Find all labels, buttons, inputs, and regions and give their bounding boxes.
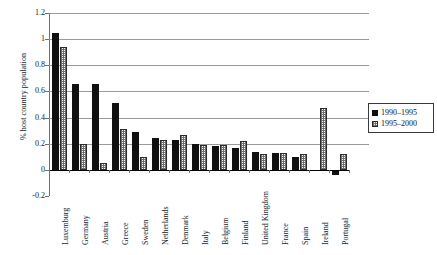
x-axis-tick [249,170,250,173]
legend-item: 1995–2000 [372,118,430,129]
y-axis-tick [45,39,49,40]
x-axis-tick-label: Sweden [142,220,150,245]
bar [300,154,307,170]
bar [280,153,287,170]
y-axis-tick [45,13,49,14]
bar [132,132,139,170]
x-axis-tick-label: Finland [242,220,250,244]
bar [200,145,207,170]
x-axis-tick [209,170,210,173]
bar [232,148,239,170]
bar [220,145,227,170]
y-axis-tick-label: 0.8 [3,61,45,69]
y-axis-tick-label: 1.2 [3,9,45,17]
bar [160,140,167,170]
x-axis-tick-label: Belgium [222,217,230,245]
x-axis-line [49,170,349,171]
bar [112,103,119,170]
x-axis-tick-label: France [282,223,290,245]
x-axis-tick [109,170,110,173]
x-axis-tick [169,170,170,173]
bar [92,84,99,170]
bar [72,84,79,170]
legend: 1990–1995 1995–2000 [368,103,434,133]
x-axis-tick-label: Austria [102,221,110,245]
x-axis-tick-label: Denmark [182,215,190,245]
bar [252,152,259,170]
bar [260,154,267,170]
y-axis-tick-labels: 1.210.80.60.40.20-0.2 [0,0,45,196]
bar [60,47,67,170]
bar [120,129,127,170]
y-axis-tick-label: 1 [3,35,45,43]
x-axis-tick-label: Ireland [322,222,330,245]
y-axis-tick [45,196,49,197]
bar [340,154,347,170]
bar [172,140,179,170]
y-axis-tick-label: 0.6 [3,87,45,95]
bar [272,153,279,170]
bar [140,157,147,170]
x-axis-tick [269,170,270,173]
bar [80,144,87,170]
x-axis-tick [69,170,70,173]
x-axis-tick-label: Netherlands [162,206,170,245]
x-axis-tick-label: Germany [82,215,90,245]
bar [152,138,159,169]
x-axis-tick-label: Italy [202,230,210,245]
x-axis-tick [49,170,50,173]
bar [212,146,219,170]
y-axis-tick-label: 0.2 [3,140,45,148]
x-axis-tick [309,170,310,173]
y-axis-tick-label: 0.4 [3,114,45,122]
y-axis-tick-label: 0 [3,166,45,174]
x-axis-tick-label: Luxemburg [62,208,70,245]
x-axis-tick [149,170,150,173]
legend-item: 1990–1995 [372,107,430,118]
plot-area [49,13,349,196]
y-axis-tick [45,91,49,92]
y-axis-tick [45,65,49,66]
legend-swatch-1990-1995 [372,110,378,116]
y-axis-tick [45,144,49,145]
x-axis-tick [289,170,290,173]
y-axis-tick [45,118,49,119]
bar [52,33,59,170]
x-axis-tick-label: Greece [122,222,130,245]
x-axis-tick-labels: LuxemburgGermanyAustriaGreeceSwedenNethe… [49,173,349,253]
x-axis-tick [329,170,330,173]
x-axis-tick [229,170,230,173]
bar [180,135,187,170]
x-axis-tick [189,170,190,173]
bar [320,108,327,169]
bar [292,157,299,170]
legend-label-1995-2000: 1995–2000 [381,120,417,128]
x-axis-tick [129,170,130,173]
bar [192,144,199,170]
x-axis-tick-label: United Kingdom [262,191,270,245]
x-axis-tick-label: Spain [302,227,310,245]
y-axis-tick-label: -0.2 [3,192,45,200]
bar-chart: % host country population 1.210.80.60.40… [0,0,437,255]
x-axis-tick [349,170,350,173]
x-axis-tick-label: Portugal [342,218,350,245]
legend-label-1990-1995: 1990–1995 [381,109,417,117]
x-axis-tick [89,170,90,173]
legend-swatch-1995-2000 [372,121,378,127]
bar [240,141,247,170]
